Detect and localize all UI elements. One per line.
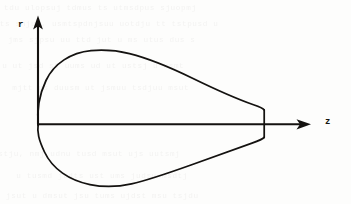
upper-profile-curve <box>38 50 264 125</box>
radial-axis-label: r <box>18 21 23 30</box>
lower-profile-curve <box>38 123 264 186</box>
figure-canvas: tdu ulopsuj tdmus ts utmsdpus sjuopmj ts… <box>0 0 351 204</box>
body-profile-contour <box>38 50 264 186</box>
profile-diagram <box>0 0 351 204</box>
axial-axis-label: z <box>325 118 330 127</box>
axial-axis <box>37 119 311 129</box>
